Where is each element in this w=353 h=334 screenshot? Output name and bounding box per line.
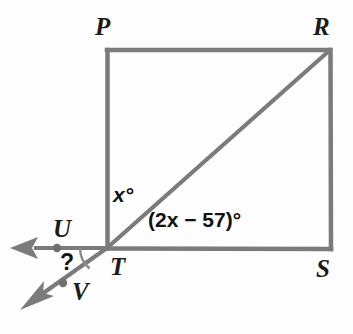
- vertex-label-T: T: [110, 254, 125, 279]
- geometry-figure: P R S T U V x° (2x − 57)° ?: [0, 0, 353, 334]
- angle-label-2x-minus-57: (2x − 57)°: [148, 209, 241, 230]
- vertex-label-R: R: [313, 14, 330, 39]
- point-dot-V: [59, 279, 67, 287]
- vertex-label-P: P: [95, 14, 110, 39]
- vertex-label-V: V: [72, 279, 89, 304]
- angle-label-x: x°: [113, 184, 133, 205]
- vertex-label-S: S: [316, 256, 330, 281]
- segment-bottom-edge-TS: [107, 249, 331, 250]
- vertex-label-U: U: [53, 216, 71, 241]
- ray-TU-arrowhead: [10, 237, 38, 259]
- geometry-canvas: [0, 0, 353, 334]
- ray-TV-arrowhead: [20, 281, 54, 310]
- segment-right-edge-RS: [331, 50, 332, 249]
- angle-label-unknown: ?: [60, 251, 74, 274]
